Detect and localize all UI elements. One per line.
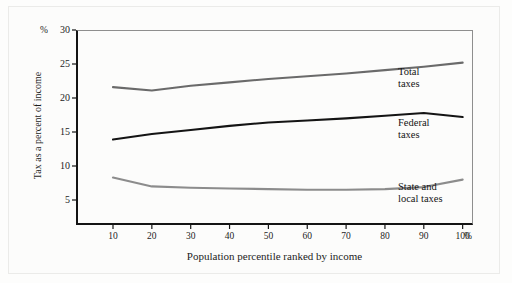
- x-axis-title: Population percentile ranked by income: [76, 250, 473, 262]
- y-tick-10: 10: [40, 161, 70, 171]
- y-tick-20: 20: [40, 93, 70, 103]
- y-axis-title: Tax as a percent of income: [32, 51, 43, 201]
- x-tick-30: 30: [176, 231, 206, 241]
- series-label-total: Total taxes: [398, 66, 420, 90]
- x-tick-10: 10: [98, 231, 128, 241]
- x-tick-50: 50: [253, 231, 283, 241]
- y-tick-25: 25: [40, 59, 70, 69]
- x-tick-40: 40: [215, 231, 245, 241]
- y-tick-30: 30: [40, 25, 70, 35]
- x-tick-70: 70: [331, 231, 361, 241]
- series-label-federal: Federal taxes: [398, 117, 430, 141]
- x-tick-60: 60: [292, 231, 322, 241]
- x-tick-100: 100: [448, 231, 478, 241]
- x-tick-80: 80: [370, 231, 400, 241]
- x-tick-90: 90: [409, 231, 439, 241]
- y-tick-15: 15: [40, 127, 70, 137]
- figure-canvas: % % Tax as a percent of income Populatio…: [0, 0, 512, 283]
- y-tick-5: 5: [40, 195, 70, 205]
- series-label-state-local: State and local taxes: [398, 181, 443, 205]
- x-tick-20: 20: [137, 231, 167, 241]
